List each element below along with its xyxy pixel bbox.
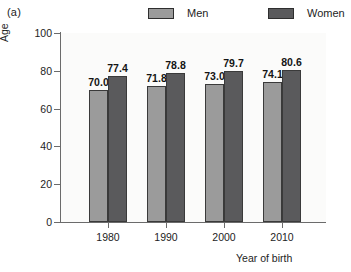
bar-chart: Age Year of birth 020406080100 198019902… [0,0,351,272]
y-tick-mark [54,71,61,72]
y-tick-label: 60 [12,103,52,115]
x-tick-label: 2000 [194,231,254,243]
bar-men-1980 [89,90,108,222]
y-axis-line [60,32,61,223]
y-tick-label: 40 [12,140,52,152]
y-tick-label: 0 [12,216,52,228]
y-tick-mark [54,146,61,147]
y-tick-mark [54,33,61,34]
y-tick-label: 80 [12,65,52,77]
bar-women-1980 [108,76,127,222]
y-tick-label: 100 [12,27,52,39]
x-tick-mark [282,222,283,228]
x-tick-label: 2010 [252,231,312,243]
y-tick-mark [54,184,61,185]
bar-women-2010 [282,70,301,222]
bar-men-2000 [205,84,224,222]
x-tick-label: 1980 [78,231,138,243]
y-axis-title: Age [0,23,10,42]
bar-value-label: 79.7 [214,57,254,69]
bar-value-label: 77.4 [98,62,138,74]
x-tick-mark [166,222,167,228]
y-tick-mark [54,109,61,110]
bar-women-2000 [224,71,243,222]
x-axis-line [60,222,326,223]
x-axis-title: Year of birth [236,252,292,264]
bar-value-label: 80.6 [272,56,312,68]
bar-value-label: 78.8 [156,59,196,71]
bar-men-1990 [147,86,166,222]
x-tick-label: 1990 [136,231,196,243]
y-tick-mark [54,222,61,223]
bar-men-2010 [263,82,282,222]
x-tick-mark [108,222,109,228]
x-tick-mark [224,222,225,228]
y-tick-label: 20 [12,178,52,190]
bar-women-1990 [166,73,185,222]
